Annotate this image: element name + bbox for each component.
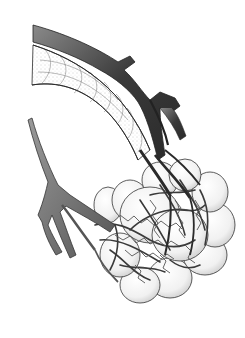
alveolar-sac <box>94 159 235 303</box>
illustration-svg <box>0 0 245 338</box>
alveoli-illustration <box>0 0 245 338</box>
